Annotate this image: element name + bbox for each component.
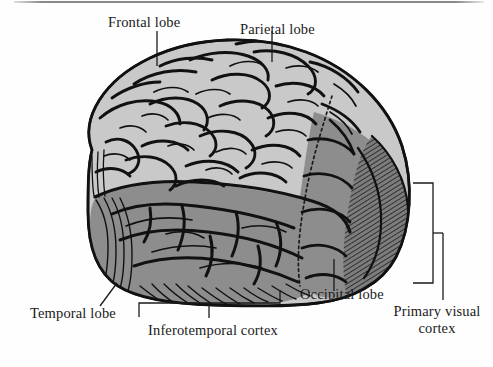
label-frontal-lobe: Frontal lobe bbox=[108, 14, 180, 31]
figure-page: Frontal lobe Parietal lobe Temporal lobe… bbox=[0, 0, 493, 367]
label-inferotemporal-cortex: Inferotemporal cortex bbox=[148, 322, 278, 339]
label-occipital-lobe: Occipital lobe bbox=[300, 286, 384, 303]
label-temporal-lobe: Temporal lobe bbox=[30, 305, 116, 322]
label-primary-visual-cortex-line1: Primary visual bbox=[385, 303, 489, 320]
label-parietal-lobe: Parietal lobe bbox=[240, 21, 315, 38]
label-primary-visual-cortex: Primary visual cortex bbox=[385, 303, 489, 337]
label-primary-visual-cortex-line2: cortex bbox=[385, 320, 489, 337]
temporal-lobe-leader-line bbox=[100, 283, 117, 306]
primary-visual-bracket bbox=[413, 183, 433, 283]
